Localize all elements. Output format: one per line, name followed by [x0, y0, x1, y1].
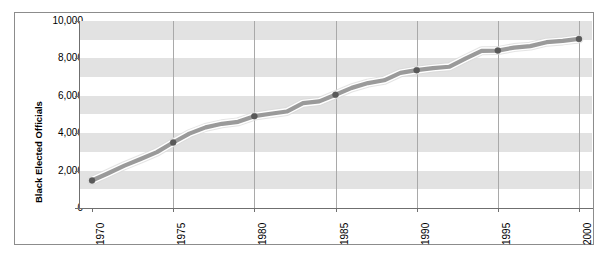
x-axis-tick-label: 2000 — [583, 223, 593, 245]
x-axis-tick-mark — [92, 208, 93, 212]
x-axis-tick-mark — [417, 208, 418, 212]
x-axis-tick-label: 1985 — [340, 223, 350, 245]
x-axis-tick-labels: 1970197519801985199019952000 — [15, 13, 593, 244]
x-axis-tick-label: 1995 — [502, 223, 512, 245]
x-axis-tick-label: 1975 — [177, 223, 187, 245]
x-axis-tick-mark — [579, 208, 580, 212]
x-axis-tick-label: 1980 — [258, 223, 268, 245]
x-axis-tick-mark — [336, 208, 337, 212]
x-axis-tick-mark — [498, 208, 499, 212]
x-axis-tick-label: 1990 — [421, 223, 431, 245]
chart-frame: Black Elected Officials 02,0004,0006,000… — [14, 12, 594, 245]
x-axis-tick-mark — [254, 208, 255, 212]
x-axis-tick-label: 1970 — [96, 223, 106, 245]
x-axis-tick-mark — [173, 208, 174, 212]
